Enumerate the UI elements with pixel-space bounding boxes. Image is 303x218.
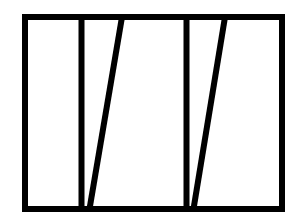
diagonal-2-line <box>194 17 226 209</box>
diagonal-1-line <box>90 17 123 209</box>
divider-lines <box>82 17 226 209</box>
diagram-canvas <box>0 0 303 218</box>
divided-rectangle-diagram <box>0 0 303 218</box>
outer-rectangle <box>25 17 282 209</box>
